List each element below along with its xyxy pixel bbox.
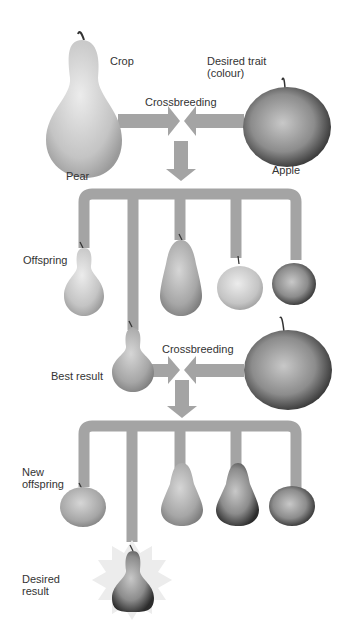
offspring-4	[272, 263, 316, 305]
label-crop: Crop	[110, 55, 134, 67]
label-pear: Pear	[66, 170, 89, 182]
label-apple: Apple	[272, 164, 300, 176]
new-offspring-3	[216, 463, 259, 526]
label-best-result: Best result	[51, 370, 103, 382]
offspring-1	[64, 242, 104, 316]
best-result-pear	[112, 321, 154, 392]
label-crossbreeding-2: Crossbreeding	[162, 343, 234, 355]
label-new-offspring: New offspring	[22, 466, 64, 490]
label-desired-result: Desired result	[22, 573, 60, 597]
label-desired-trait: Desired trait (colour)	[207, 55, 266, 79]
label-crossbreeding-1: Crossbreeding	[145, 96, 217, 108]
new-offspring-2	[161, 463, 203, 526]
crossbreed-arrows-2	[150, 356, 244, 418]
offspring-2	[160, 234, 202, 316]
apple-desired-2	[244, 317, 332, 410]
pear-crop	[46, 32, 122, 178]
apple-desired	[243, 78, 331, 167]
label-offspring: Offspring	[23, 254, 67, 266]
crossbreed-arrows-1	[118, 106, 244, 181]
new-offspring-1	[60, 483, 106, 527]
offspring-3	[217, 256, 263, 310]
new-offspring-4	[269, 486, 315, 526]
